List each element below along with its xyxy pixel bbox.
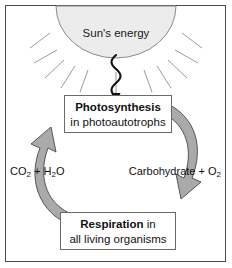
carbohydrate-oxygen-label: Carbohydrate + O2 <box>129 165 221 179</box>
sun-ray <box>80 70 88 92</box>
respiration-in: in <box>144 218 156 230</box>
sun-ray <box>61 66 75 88</box>
co2-water-label: CO2 + H2O <box>10 165 64 179</box>
respiration-subtitle: all living organisms <box>61 232 175 247</box>
co2-middle: + H <box>31 165 51 177</box>
sun-ray <box>45 60 64 78</box>
sun-energy-label: Sun's energy <box>0 27 232 39</box>
photosynthesis-title: Photosynthesis <box>65 100 171 115</box>
water-suffix: O <box>56 165 65 177</box>
respiration-title: Respiration in <box>61 217 175 232</box>
sun-ray <box>175 50 198 63</box>
sun-ray <box>157 66 171 88</box>
carbohydrate-prefix: Carbohydrate + O <box>129 165 217 177</box>
oxygen-subscript: 2 <box>217 170 221 179</box>
photosynthesis-subtitle: in photoautotrophs <box>65 115 171 130</box>
carbon-cycle-figure: Sun's energy CO2 + H2O Carbohydrate + O2… <box>0 0 232 268</box>
sun-ray <box>144 70 152 92</box>
respiration-box: Respiration in all living organisms <box>60 212 176 250</box>
sun-ray <box>168 60 187 78</box>
respiration-bold: Respiration <box>80 218 143 230</box>
co2-prefix: CO <box>10 165 27 177</box>
sun-ray <box>34 50 57 63</box>
photosynthesis-box: Photosynthesis in photoautotrophs <box>64 95 172 133</box>
